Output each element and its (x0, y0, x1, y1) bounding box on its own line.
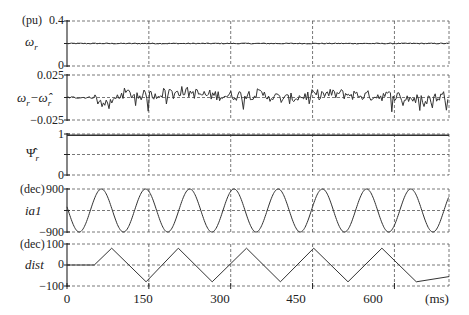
ytick-dist-mid: 0 (44, 258, 64, 271)
ytick-psi-top: 1 (44, 128, 64, 141)
ytick-psi-bottom: 0 (44, 169, 64, 182)
xtick-300: 300 (210, 292, 230, 306)
ylabel-omega-r: ωr (25, 35, 38, 54)
ylabel-psi-r: Ψ̂r (26, 146, 39, 165)
xtick-600: 600 (363, 292, 383, 306)
ytick-error-top: 0.025 (24, 69, 64, 82)
xtick-0: 0 (64, 292, 71, 306)
ytick-error-bottom: −0.025 (14, 114, 64, 127)
series-line-omega-r (67, 43, 448, 44)
chart-canvas (0, 0, 469, 315)
xtick-450: 450 (286, 292, 306, 306)
ytick-dist-bottom: −100 (24, 280, 64, 293)
ylabel-ia1: ia1 (25, 204, 42, 218)
ylabel-speed-error: ωr−ω̂r (17, 91, 51, 110)
unit-label-pu: (pu) (22, 14, 42, 27)
series-line-speed-error (67, 87, 448, 112)
xaxis-unit-ms: (ms) (425, 292, 449, 306)
ytick-omega-top: 0.4 (44, 14, 64, 27)
xtick-150: 150 (133, 292, 153, 306)
ytick-dist-top: 100 (34, 238, 64, 251)
ytick-ia1-top: 900 (34, 183, 64, 196)
ylabel-dist: dist (25, 258, 44, 272)
